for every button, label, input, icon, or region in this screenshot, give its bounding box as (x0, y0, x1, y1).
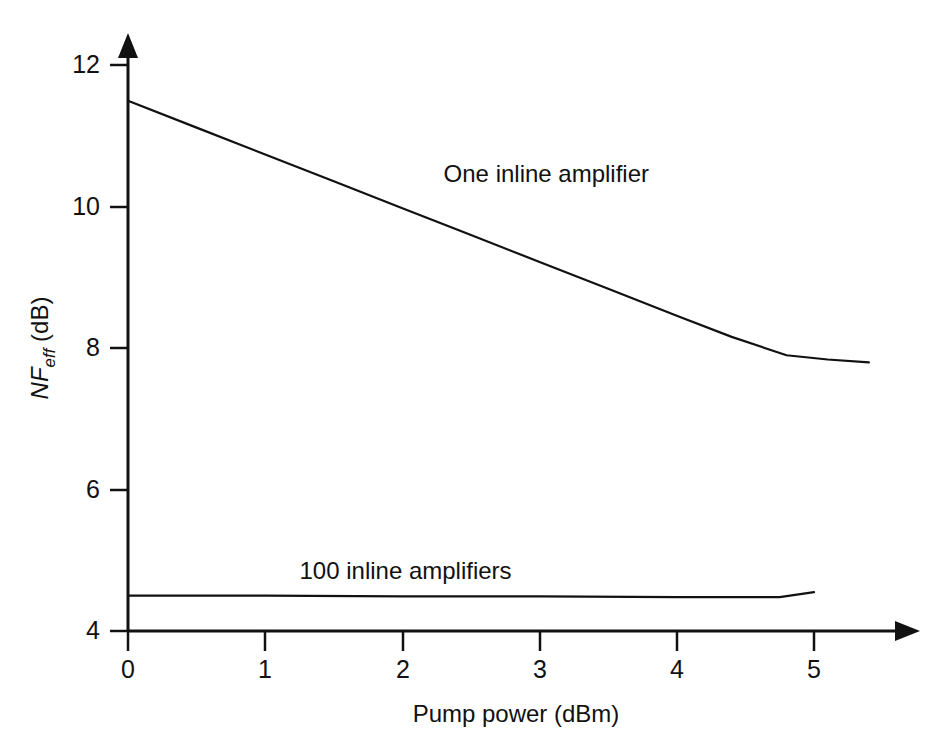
x-axis-title: Pump power (dBm) (413, 700, 620, 727)
series-line-one-inline-amplifier (128, 101, 869, 363)
x-axis-arrow-icon (895, 621, 920, 641)
y-tick-label-4: 4 (86, 616, 100, 644)
y-tick-label-10: 10 (72, 192, 100, 220)
x-tick-label-1: 1 (258, 655, 272, 683)
x-tick-label-0: 0 (121, 655, 135, 683)
series-annotation-100-inline-amplifiers: 100 inline amplifiers (300, 557, 512, 584)
y-axis-title: NFeff (dB) (26, 297, 59, 400)
x-axis-tick-labels: 0 1 2 3 4 5 (121, 655, 821, 683)
y-tick-label-6: 6 (86, 475, 100, 503)
y-axis-ticks (110, 65, 128, 631)
y-axis-arrow-icon (118, 33, 138, 58)
y-tick-label-8: 8 (86, 333, 100, 361)
series-annotation-one-inline-amplifier: One inline amplifier (444, 160, 649, 187)
series-line-100-inline-amplifiers (128, 592, 814, 597)
x-axis-ticks (128, 631, 814, 651)
y-tick-label-12: 12 (72, 50, 100, 78)
y-axis-title-main: NF (26, 366, 53, 399)
chart-canvas: 12 10 8 6 4 0 1 2 3 4 5 One inline (0, 0, 932, 755)
x-tick-label-2: 2 (396, 655, 410, 683)
figure-container: 12 10 8 6 4 0 1 2 3 4 5 One inline (0, 0, 932, 755)
y-axis-tick-labels: 12 10 8 6 4 (72, 50, 100, 644)
y-axis-title-unit: (dB) (26, 297, 53, 349)
x-tick-label-5: 5 (807, 655, 821, 683)
x-tick-label-4: 4 (670, 655, 684, 683)
x-tick-label-3: 3 (533, 655, 547, 683)
